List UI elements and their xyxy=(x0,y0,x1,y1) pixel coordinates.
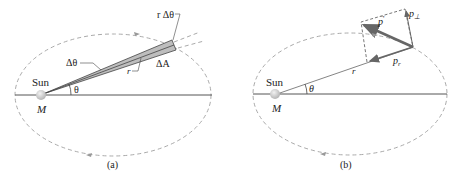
theta-label: θ xyxy=(309,83,314,94)
sun-icon xyxy=(36,90,46,100)
perp-component-label: p⊥ xyxy=(408,8,420,21)
sun-label: Sun xyxy=(266,76,284,88)
orbit-direction-arrow xyxy=(86,153,92,157)
panel-b: Sun M θ r p → pr p⊥ (b) xyxy=(253,8,447,171)
sun-icon xyxy=(270,89,280,99)
caption-b: (b) xyxy=(340,159,352,171)
radius-label: r xyxy=(127,66,131,76)
theta-arc xyxy=(69,84,71,95)
momentum-vector xyxy=(364,25,413,47)
radius-label: r xyxy=(352,66,356,76)
mass-label: M xyxy=(271,102,282,114)
orbit-direction-arrow xyxy=(372,33,378,37)
leader-line xyxy=(80,63,101,70)
area-label: ΔA xyxy=(156,58,170,69)
theta-label: θ xyxy=(74,84,79,95)
mass-label: M xyxy=(36,103,47,115)
theta-arc xyxy=(305,84,307,94)
radial-component-label: pr xyxy=(392,55,401,68)
radial-component-vector xyxy=(370,47,413,61)
panel-a: Sun M θ Δθ r r Δθ ΔA (a) xyxy=(15,9,212,171)
delta-theta-label: Δθ xyxy=(66,57,77,68)
extension-line xyxy=(178,41,204,48)
sun-label: Sun xyxy=(32,76,50,88)
vector-arrow-mark: → xyxy=(379,12,386,20)
orbit-direction-arrow xyxy=(134,32,140,36)
extension-line xyxy=(174,32,200,42)
caption-a: (a) xyxy=(107,159,118,171)
kepler-diagram: Sun M θ Δθ r r Δθ ΔA (a) Sun M θ r p → xyxy=(0,0,461,186)
arc-length-label: r Δθ xyxy=(157,9,174,20)
radius-line xyxy=(43,45,174,94)
